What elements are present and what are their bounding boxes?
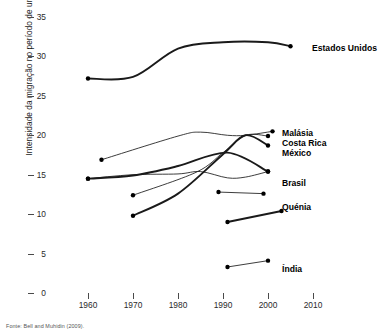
data-point-marker — [225, 220, 229, 224]
series-label--ndia: Índia — [282, 265, 302, 274]
data-point-marker — [131, 193, 135, 197]
data-point-marker — [266, 134, 270, 138]
series-line — [228, 261, 269, 267]
chart-figure: Intensidade da migração no período de um… — [0, 0, 389, 335]
data-point-marker — [131, 214, 135, 218]
data-point-marker — [86, 176, 90, 180]
data-point-marker — [266, 169, 270, 173]
series-line — [219, 192, 264, 194]
data-point-marker — [225, 265, 229, 269]
data-point-marker — [270, 129, 274, 133]
data-point-marker — [99, 158, 103, 162]
series-label-qu-nia: Quénia — [282, 203, 311, 212]
series-line — [88, 42, 291, 80]
series-label-mal-sia: Malásia — [282, 129, 313, 138]
series-label-costa-rica: Costa Rica — [282, 139, 326, 148]
series-line — [228, 211, 282, 222]
series-label-brasil: Brasil — [282, 179, 306, 188]
data-point-marker — [288, 44, 292, 48]
data-point-marker — [266, 143, 270, 147]
series-label-estados-unidos: Estados Unidos — [312, 44, 377, 53]
data-point-marker — [216, 190, 220, 194]
series-line — [88, 153, 268, 179]
source-note: Fonte: Bell and Muhidin (2009). — [6, 323, 84, 329]
data-point-marker — [86, 76, 90, 80]
data-point-marker — [261, 191, 265, 195]
data-point-marker — [266, 258, 270, 262]
series-label-m-xico: México — [282, 149, 311, 158]
series-line — [133, 135, 268, 216]
